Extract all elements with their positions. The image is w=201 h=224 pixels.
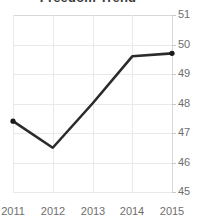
y-tick-50: [172, 45, 176, 46]
y-tick-48: [172, 104, 176, 105]
x-tick-label-2014: 2014: [120, 205, 144, 217]
x-tick-label-2011: 2011: [1, 205, 25, 217]
y-tick-label-47: 47: [178, 127, 201, 138]
y-axis-tick-labels: 45464748495051: [178, 0, 201, 224]
y-tick-49: [172, 74, 176, 75]
y-tick-47: [172, 133, 176, 134]
y-tick-45: [172, 192, 176, 193]
x-axis-tick-labels: 20112012201320142015: [0, 205, 201, 219]
plot-area: [13, 15, 172, 192]
line-chart: Freedom Trend 45464748495051 20112012201…: [0, 0, 201, 224]
series-polyline: [13, 53, 172, 147]
x-tick-label-2012: 2012: [41, 205, 65, 217]
y-tick-label-45: 45: [178, 186, 201, 197]
data-point-2015[interactable]: [169, 51, 174, 56]
x-tick-label-2013: 2013: [81, 205, 105, 217]
y-tick-label-51: 51: [178, 9, 201, 20]
y-tick-46: [172, 163, 176, 164]
gridline-y-45: [13, 192, 172, 193]
y-tick-51: [172, 15, 176, 16]
chart-title: Freedom Trend: [0, 0, 176, 5]
y-tick-label-48: 48: [178, 98, 201, 109]
series-line-score: [13, 15, 172, 192]
y-tick-label-46: 46: [178, 157, 201, 168]
y-tick-label-49: 49: [178, 68, 201, 79]
y-tick-label-50: 50: [178, 39, 201, 50]
data-point-2011[interactable]: [10, 119, 15, 124]
x-tick-label-2015: 2015: [160, 205, 184, 217]
